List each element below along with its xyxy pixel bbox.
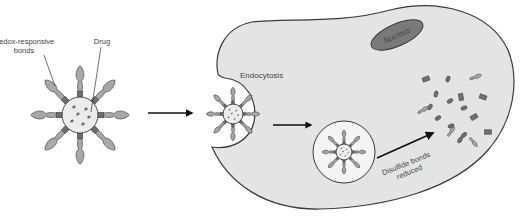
ligand	[94, 129, 118, 153]
ligand	[213, 94, 226, 107]
ligand	[42, 129, 66, 153]
ligand	[355, 150, 367, 154]
redox-bonds-label-line2: bonds	[14, 46, 35, 55]
ligand	[42, 77, 66, 101]
ligand-arm	[231, 87, 235, 105]
ligand	[342, 130, 346, 142]
linker-fragment	[458, 93, 464, 101]
linker-fragment	[485, 130, 492, 134]
cell-membrane	[212, 6, 514, 209]
ligand	[241, 94, 254, 107]
nanoparticle-in-vesicle	[322, 130, 366, 174]
ligand-arm	[31, 111, 63, 119]
ligand	[342, 163, 346, 175]
ligand	[76, 66, 84, 91]
ligand	[213, 122, 226, 135]
ligand-arm	[242, 112, 260, 116]
ligand-arm	[206, 112, 224, 116]
ligand	[246, 112, 260, 116]
redox-nanoparticle-delivery-diagram: Nucleus Endocytosis Redox-responsive bon…	[0, 0, 521, 217]
ligand-arm	[42, 124, 70, 152]
ligand	[231, 127, 235, 141]
ligand	[94, 77, 118, 101]
drug-label: Drug	[94, 37, 110, 46]
ligand	[231, 87, 235, 101]
ligand-arm	[42, 77, 70, 105]
ligand	[31, 111, 56, 119]
nanoparticle-core	[223, 104, 243, 124]
endocytosis-label: Endocytosis	[240, 71, 283, 80]
ligand-arm	[89, 77, 117, 105]
ligand-arm	[76, 132, 84, 164]
ligand-arm	[76, 66, 84, 98]
ligand	[104, 111, 129, 119]
redox-bonds-label-line1: Redox-responsive	[0, 37, 54, 46]
ligand-arm	[89, 124, 117, 152]
ligand	[206, 112, 220, 116]
nanoparticle-core	[336, 144, 352, 160]
ligand	[76, 139, 84, 164]
nanoparticle-free	[31, 66, 129, 164]
ligand	[322, 150, 334, 154]
ligand-arm	[97, 111, 129, 119]
nanoparticle-entering	[206, 87, 260, 141]
ligand-arm	[231, 123, 235, 141]
